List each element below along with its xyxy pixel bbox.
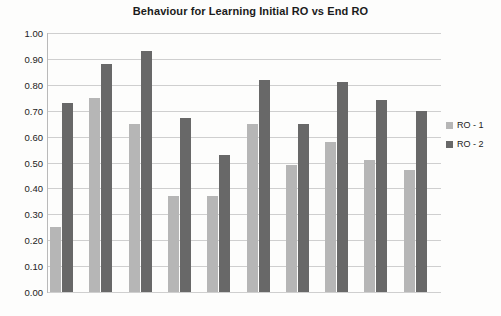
bar-ro-2-8: [337, 82, 348, 292]
bar-ro-2-10: [416, 111, 427, 292]
legend-swatch-icon: [446, 122, 453, 129]
bar-group: [325, 33, 360, 292]
legend-label: RO - 1: [457, 120, 484, 130]
bar-ro-2-6: [259, 80, 270, 292]
legend-label: RO - 2: [457, 139, 484, 149]
y-tick-label: 0.70: [5, 105, 43, 116]
y-tick-label: 0.20: [5, 235, 43, 246]
gridline: [48, 292, 441, 293]
y-tick-label: 0.60: [5, 131, 43, 142]
bar-ro-1-8: [325, 142, 336, 292]
y-tick-label: 0.40: [5, 183, 43, 194]
bar-group: [286, 33, 321, 292]
bar-ro-1-5: [207, 196, 218, 292]
bar-group: [168, 33, 203, 292]
y-tick-label: 0.50: [5, 157, 43, 168]
y-axis: 1.000.900.800.700.600.500.400.300.200.10…: [0, 33, 43, 292]
bar-ro-1-6: [247, 124, 258, 292]
legend-swatch-icon: [446, 141, 453, 148]
bar-group: [50, 33, 85, 292]
bar-ro-1-3: [129, 124, 140, 292]
bar-ro-2-4: [180, 118, 191, 292]
plot-area: [47, 33, 441, 293]
bar-group: [129, 33, 164, 292]
y-tick-label: 0.00: [5, 287, 43, 298]
bar-group: [364, 33, 399, 292]
bar-group: [404, 33, 439, 292]
y-tick-label: 0.30: [5, 209, 43, 220]
bar-ro-2-7: [298, 124, 309, 292]
bar-ro-1-4: [168, 196, 179, 292]
bar-ro-2-2: [101, 64, 112, 292]
y-tick-label: 0.10: [5, 261, 43, 272]
bar-ro-2-9: [376, 100, 387, 292]
bar-group: [247, 33, 282, 292]
y-tick-label: 0.80: [5, 79, 43, 90]
chart-title: Behaviour for Learning Initial RO vs End…: [0, 5, 501, 17]
bar-group: [89, 33, 124, 292]
bar-ro-1-10: [404, 170, 415, 292]
bar-ro-1-7: [286, 165, 297, 292]
bar-ro-2-3: [141, 51, 152, 292]
bars-layer: [48, 33, 441, 292]
chart-legend: RO - 1RO - 2: [446, 120, 501, 158]
chart-container: Behaviour for Learning Initial RO vs End…: [0, 0, 501, 316]
bar-ro-1-9: [364, 160, 375, 292]
bar-ro-2-5: [219, 155, 230, 292]
y-tick-label: 0.90: [5, 53, 43, 64]
legend-item[interactable]: RO - 1: [446, 120, 501, 130]
bar-ro-2-1: [62, 103, 73, 292]
bar-ro-1-1: [50, 227, 61, 292]
legend-item[interactable]: RO - 2: [446, 139, 501, 149]
y-tick-label: 1.00: [5, 28, 43, 39]
bar-ro-1-2: [89, 98, 100, 292]
bar-group: [207, 33, 242, 292]
